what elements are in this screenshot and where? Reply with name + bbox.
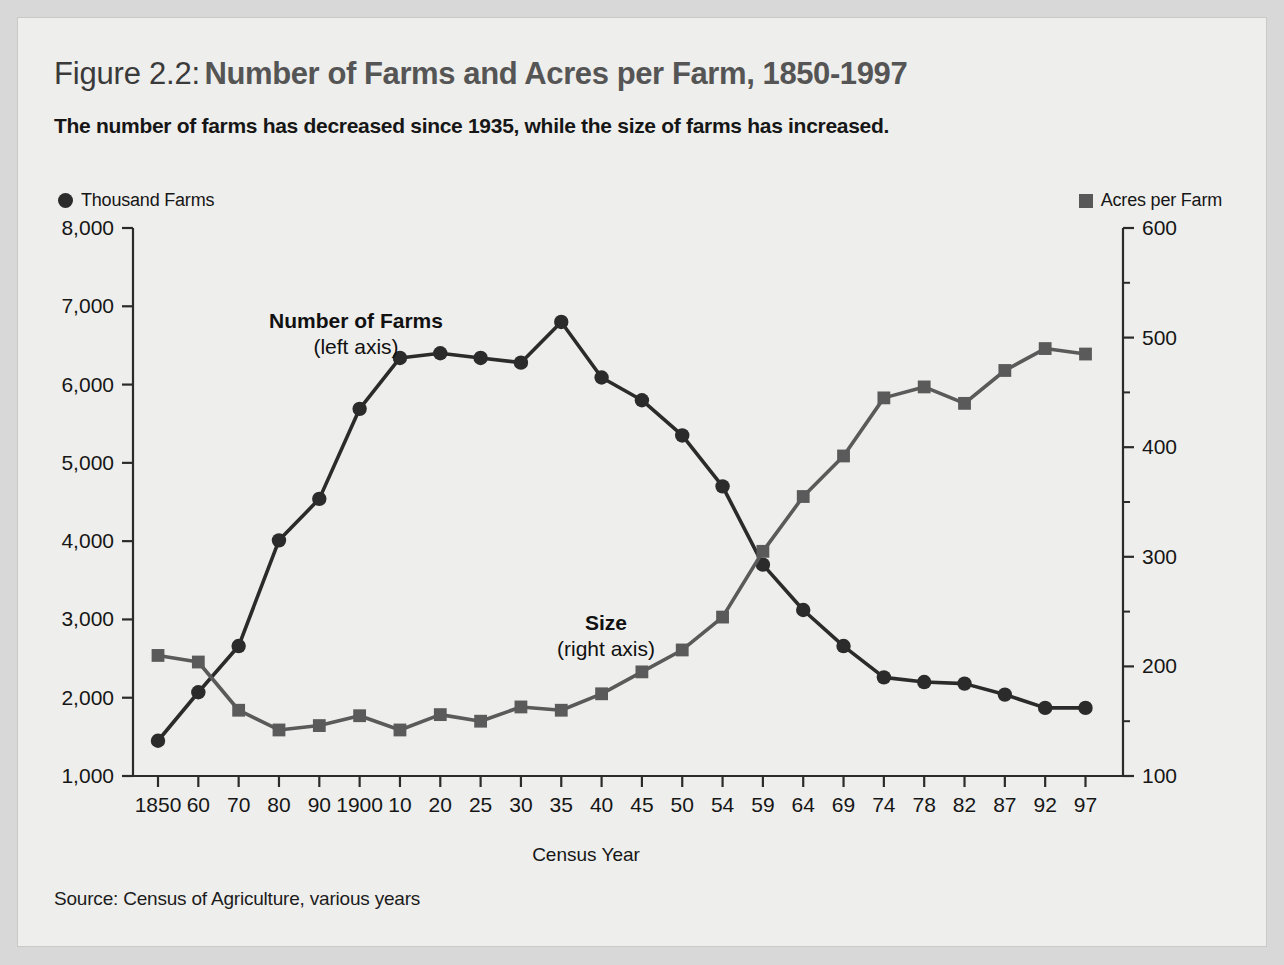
y-axis-right-tick-label: 500 [1142, 326, 1177, 349]
y-axis-left-tick-label: 2,000 [61, 686, 114, 709]
data-point-marker [554, 315, 568, 329]
data-point-marker [756, 545, 769, 558]
annotation-number-of-farms-axis: (left axis) [313, 335, 398, 358]
data-point-marker [514, 355, 528, 369]
data-point-marker [434, 708, 447, 721]
x-axis-tick-label: 70 [227, 793, 250, 816]
y-axis-left-tick-label: 8,000 [61, 216, 114, 239]
data-point-marker [716, 611, 729, 624]
x-axis-tick-label: 90 [308, 793, 331, 816]
figure-card: Figure 2.2: Number of Farms and Acres pe… [18, 18, 1266, 946]
y-axis-right-tick-label: 400 [1142, 435, 1177, 458]
y-axis-left-tick-label: 1,000 [61, 764, 114, 787]
data-point-marker [594, 370, 608, 384]
x-axis-tick-label: 69 [832, 793, 855, 816]
x-axis-tick-label: 54 [711, 793, 735, 816]
x-axis-tick-label: 92 [1033, 793, 1056, 816]
x-axis-tick-label: 45 [630, 793, 653, 816]
x-axis-tick-label: 25 [469, 793, 492, 816]
x-axis-tick-label: 50 [671, 793, 694, 816]
axes-layer: 1,0002,0003,0004,0005,0006,0007,0008,000… [61, 216, 1177, 816]
data-point-marker [394, 724, 407, 737]
data-point-marker [151, 734, 165, 748]
y-axis-left-tick-label: 3,000 [61, 607, 114, 630]
x-axis-tick-label: 10 [388, 793, 411, 816]
data-point-marker [515, 701, 528, 714]
series-layer [151, 315, 1093, 748]
annotation-number-of-farms: Number of Farms [269, 309, 443, 332]
data-point-marker [796, 603, 810, 617]
chart-plot-area: 1,0002,0003,0004,0005,0006,0007,0008,000… [18, 18, 1266, 946]
y-axis-left-tick-label: 6,000 [61, 373, 114, 396]
y-axis-right-tick-label: 600 [1142, 216, 1177, 239]
data-point-marker [676, 644, 689, 657]
series-line-square [158, 349, 1086, 730]
series-line-circle [158, 322, 1086, 741]
annotation-size: Size [585, 611, 627, 634]
data-point-marker [957, 676, 971, 690]
data-point-marker [636, 665, 649, 678]
x-axis-tick-label: 82 [953, 793, 976, 816]
data-point-marker [474, 715, 487, 728]
x-axis-tick-label: 30 [509, 793, 532, 816]
x-axis-tick-label: 78 [913, 793, 936, 816]
data-point-marker [1038, 701, 1052, 715]
data-point-marker [232, 704, 245, 717]
x-axis-tick-label: 60 [187, 793, 210, 816]
x-axis-tick-label: 1850 [135, 793, 182, 816]
data-point-marker [877, 391, 890, 404]
x-axis-tick-label: 64 [792, 793, 816, 816]
y-axis-left-tick-label: 4,000 [61, 529, 114, 552]
data-point-marker [473, 351, 487, 365]
x-axis-title-text: Census Year [532, 844, 640, 865]
x-axis-tick-label: 59 [751, 793, 774, 816]
x-axis-tick-label: 40 [590, 793, 613, 816]
data-point-marker [715, 479, 729, 493]
y-axis-right-tick-label: 300 [1142, 545, 1177, 568]
x-axis-tick-label: 1900 [336, 793, 383, 816]
data-point-marker [595, 687, 608, 700]
data-point-marker [917, 675, 931, 689]
x-axis-tick-label: 35 [550, 793, 573, 816]
data-point-marker [192, 656, 205, 669]
x-axis-tick-label: 74 [872, 793, 896, 816]
source-note: Source: Census of Agriculture, various y… [54, 888, 420, 910]
x-axis-title: Census Year [18, 844, 1266, 866]
data-point-marker [352, 402, 366, 416]
data-point-marker [433, 346, 447, 360]
y-axis-left-tick-label: 5,000 [61, 451, 114, 474]
data-point-marker [675, 428, 689, 442]
y-axis-right-tick-label: 100 [1142, 764, 1177, 787]
data-point-marker [152, 649, 165, 662]
data-point-marker [555, 704, 568, 717]
data-point-marker [1039, 342, 1052, 355]
x-axis-tick-label: 87 [993, 793, 1016, 816]
x-axis-tick-label: 97 [1074, 793, 1097, 816]
data-point-marker [353, 709, 366, 722]
data-point-marker [958, 397, 971, 410]
data-point-marker [998, 687, 1012, 701]
data-point-marker [836, 639, 850, 653]
annotation-size-axis: (right axis) [557, 637, 655, 660]
data-point-marker [877, 670, 891, 684]
x-axis-tick-label: 80 [267, 793, 290, 816]
data-point-marker [918, 381, 931, 394]
data-point-marker [272, 533, 286, 547]
data-point-marker [837, 450, 850, 463]
data-point-marker [635, 393, 649, 407]
x-axis-tick-label: 20 [429, 793, 452, 816]
data-point-marker [1079, 348, 1092, 361]
y-axis-left-tick-label: 7,000 [61, 294, 114, 317]
data-point-marker [1078, 701, 1092, 715]
data-point-marker [312, 492, 326, 506]
y-axis-right-tick-label: 200 [1142, 654, 1177, 677]
data-point-marker [797, 490, 810, 503]
data-point-marker [231, 639, 245, 653]
data-point-marker [998, 364, 1011, 377]
data-point-marker [191, 685, 205, 699]
data-point-marker [313, 719, 326, 732]
data-point-marker [273, 724, 286, 737]
